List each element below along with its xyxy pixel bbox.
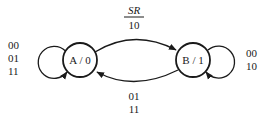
state-b: B / 1 xyxy=(176,43,210,77)
loop-b-label-1: 00 xyxy=(246,47,258,59)
transition-b-to-a xyxy=(97,70,178,82)
self-loop-a-labels: 00 01 11 xyxy=(8,39,20,77)
transition-a-b-label: 10 xyxy=(129,19,141,31)
self-loop-b-labels: 00 10 xyxy=(246,47,258,72)
loop-a-label-3: 11 xyxy=(8,65,19,77)
input-header-label: SR 10 xyxy=(124,4,144,31)
state-b-label: B / 1 xyxy=(182,54,203,66)
transition-a-to-b xyxy=(95,39,176,52)
transition-b-a-label-1: 01 xyxy=(129,90,140,102)
transition-b-a-label-2: 11 xyxy=(129,103,140,115)
state-a-label: A / 0 xyxy=(69,54,91,66)
loop-a-label-2: 01 xyxy=(8,52,19,64)
transition-b-a-labels: 01 11 xyxy=(129,90,140,115)
loop-a-label-1: 00 xyxy=(8,39,20,51)
header-sr: SR xyxy=(128,4,141,16)
state-a: A / 0 xyxy=(63,43,97,77)
state-diagram: 00 01 11 A / 0 00 10 B / 1 SR 10 01 11 xyxy=(0,0,268,122)
loop-b-label-2: 10 xyxy=(246,60,258,72)
